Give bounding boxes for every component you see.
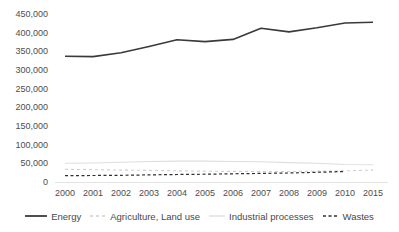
legend-item-agriculture-land-use: Agriculture, Land use [90,211,200,222]
series-line-agriculture-land-use [65,169,373,171]
chart-legend: EnergyAgriculture, Land useIndustrial pr… [0,206,399,226]
legend-marker-energy-icon [25,212,47,220]
y-axis-tick-label: 450,000 [15,9,48,19]
y-axis-tick-label: 100,000 [15,140,48,150]
x-axis-tick-label: 2002 [111,188,131,198]
legend-item-industrial-processes: Industrial processes [209,211,313,222]
y-axis-tick-label: 200,000 [15,102,48,112]
x-axis-tick-label: 2015 [363,188,383,198]
series-line-wastes [65,172,345,176]
x-axis-tick-label: 2003 [139,188,159,198]
x-axis-tick-label: 2007 [251,188,271,198]
y-axis-tick-label: 250,000 [15,84,48,94]
legend-item-energy: Energy [25,211,81,222]
legend-label-energy: Energy [51,211,81,222]
x-axis-tick-label: 2004 [167,188,187,198]
y-axis-tick-label: 400,000 [15,28,48,38]
chart-figure: 050,000100,000150,000200,000250,000300,0… [0,0,399,232]
x-axis-tick-label: 2010 [335,188,355,198]
y-axis-tick-label: 50,000 [20,158,48,168]
legend-label-industrial-processes: Industrial processes [229,211,313,222]
series-line-energy [65,22,373,56]
y-axis-tick-label: 150,000 [15,121,48,131]
x-axis-tick-label: 2005 [195,188,215,198]
x-axis-tick-label: 2008 [279,188,299,198]
x-axis-tick-label: 2009 [307,188,327,198]
x-axis-tick-label: 2000 [55,188,75,198]
line-chart-canvas: 050,000100,000150,000200,000250,000300,0… [0,0,399,205]
x-axis-tick-label: 2001 [83,188,103,198]
y-axis-tick-label: 0 [43,177,48,187]
y-axis-tick-label: 300,000 [15,65,48,75]
legend-label-wastes: Wastes [343,211,374,222]
legend-marker-wastes-icon [323,212,339,220]
x-axis-tick-label: 2006 [223,188,243,198]
legend-label-agriculture-land-use: Agriculture, Land use [110,211,200,222]
legend-marker-agriculture-land-use-icon [90,212,106,220]
series-line-industrial-processes [65,161,373,165]
legend-marker-industrial-processes-icon [209,212,225,220]
legend-item-wastes: Wastes [323,211,374,222]
y-axis-tick-label: 350,000 [15,46,48,56]
